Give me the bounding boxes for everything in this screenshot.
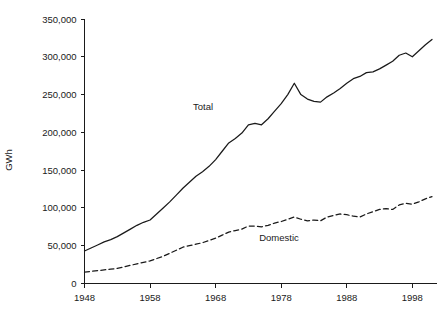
- y-tick-label: 50,000: [47, 240, 76, 251]
- line-chart: 050,000100,000150,000200,000250,000300,0…: [0, 0, 444, 317]
- chart-container: 050,000100,000150,000200,000250,000300,0…: [0, 0, 444, 317]
- y-tick-label: 350,000: [42, 14, 76, 25]
- y-axis-group: 050,000100,000150,000200,000250,000300,0…: [42, 14, 84, 290]
- y-axis-ticks: [81, 19, 85, 284]
- y-tick-label: 0: [71, 278, 76, 289]
- x-tick-label: 1998: [402, 292, 423, 303]
- x-tick-label: 1978: [271, 292, 292, 303]
- y-tick-label: 100,000: [42, 202, 76, 213]
- y-tick-label: 200,000: [42, 127, 76, 138]
- x-tick-label: 1968: [205, 292, 226, 303]
- series-line-total: [85, 39, 433, 251]
- x-tick-label: 1958: [139, 292, 160, 303]
- y-tick-label: 250,000: [42, 89, 76, 100]
- x-axis-tick-labels: 194819581968197819881998: [74, 292, 423, 303]
- x-tick-label: 1988: [336, 292, 357, 303]
- y-tick-label: 150,000: [42, 165, 76, 176]
- y-axis-tick-labels: 050,000100,000150,000200,000250,000300,0…: [42, 14, 76, 290]
- y-axis-title: GWh: [3, 149, 14, 171]
- series-label-total: Total: [193, 101, 213, 112]
- x-axis-ticks: [85, 284, 413, 288]
- y-tick-label: 300,000: [42, 51, 76, 62]
- series-label-domestic: Domestic: [259, 232, 299, 243]
- x-axis-group: 194819581968197819881998: [74, 284, 437, 303]
- x-tick-label: 1948: [74, 292, 95, 303]
